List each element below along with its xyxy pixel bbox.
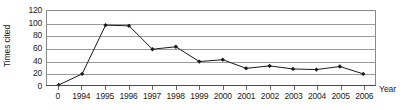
x-tick-mark [294, 86, 295, 90]
x-tick-mark [364, 86, 365, 90]
x-tick-label: 2004 [308, 91, 326, 101]
series-polyline [59, 25, 364, 85]
plot-area [46, 10, 376, 86]
y-axis-title: Times cited [0, 0, 14, 92]
x-tick-mark [341, 86, 342, 90]
data-point-marker [338, 64, 342, 68]
x-axis-title: Year [379, 84, 396, 94]
x-tick-mark [246, 86, 247, 90]
y-tick-label: 40 [33, 56, 42, 66]
x-tick-mark [223, 86, 224, 90]
x-tick-mark [58, 86, 59, 90]
x-tick-mark [176, 86, 177, 90]
x-tick-label: 2002 [261, 91, 279, 101]
x-tick-label: 2005 [332, 91, 350, 101]
y-tick-label: 20 [33, 68, 42, 78]
series-line-times-cited [47, 11, 375, 85]
x-tick-mark [129, 86, 130, 90]
x-tick-label: 1998 [167, 91, 185, 101]
x-tick-mark [317, 86, 318, 90]
x-tick-label: 1996 [119, 91, 137, 101]
y-tick-label: 100 [28, 18, 42, 28]
x-tick-label: 1995 [96, 91, 114, 101]
x-tick-label: 1994 [72, 91, 90, 101]
x-tick-mark [105, 86, 106, 90]
data-point-marker [221, 58, 225, 62]
data-point-marker [361, 72, 365, 76]
y-axis-tick-labels: 120100806040200 [14, 0, 44, 92]
data-point-marker [103, 23, 107, 27]
x-tick-mark [81, 86, 82, 90]
x-tick-label: 2003 [284, 91, 302, 101]
x-axis-tick-labels: 0199419951996199719981999200020012002200… [0, 91, 402, 105]
x-tick-label: 1997 [143, 91, 161, 101]
x-tick-label: 2000 [214, 91, 232, 101]
data-point-marker [267, 64, 271, 68]
x-tick-label: 1999 [190, 91, 208, 101]
x-tick-mark [152, 86, 153, 90]
data-point-marker [314, 67, 318, 71]
x-tick-label: 2006 [355, 91, 373, 101]
y-tick-label: 60 [33, 43, 42, 53]
x-tick-label: 2001 [237, 91, 255, 101]
x-tick-mark [199, 86, 200, 90]
x-tick-label: 0 [56, 91, 61, 101]
citation-line-chart: Times cited 120100806040200 019941995199… [0, 0, 402, 110]
data-point-marker [80, 72, 84, 76]
y-axis-title-text: Times cited [2, 25, 12, 67]
y-tick-label: 0 [37, 81, 42, 91]
y-tick-label: 80 [33, 30, 42, 40]
x-tick-mark [270, 86, 271, 90]
y-tick-label: 120 [28, 5, 42, 15]
data-point-marker [244, 66, 248, 70]
data-point-marker [291, 67, 295, 71]
